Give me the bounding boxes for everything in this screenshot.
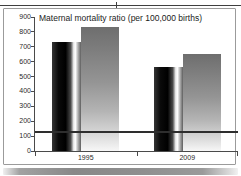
x-tick-mark bbox=[35, 152, 36, 156]
y-tick-mark bbox=[31, 121, 35, 122]
plot-area: 900800700600500400300200100019952009 bbox=[34, 17, 238, 152]
bar-gray-gradient-bars-2009 bbox=[183, 54, 221, 151]
y-tick-mark bbox=[31, 31, 35, 32]
y-tick-label: 700 bbox=[7, 43, 31, 51]
y-tick-mark bbox=[31, 46, 35, 47]
chart-frame: Maternal mortality ratio (per 100,000 bi… bbox=[3, 8, 236, 165]
y-tick-mark bbox=[31, 17, 35, 18]
y-tick-label: 900 bbox=[7, 13, 31, 21]
x-tick-mark bbox=[237, 152, 238, 156]
y-tick-mark bbox=[31, 91, 35, 92]
page: Maternal mortality ratio (per 100,000 bi… bbox=[0, 0, 241, 176]
y-tick-label: 400 bbox=[7, 87, 31, 95]
cropped-page-shadow bbox=[3, 168, 238, 175]
x-axis-label-1995: 1995 bbox=[78, 154, 94, 161]
y-tick-mark bbox=[31, 61, 35, 62]
cropped-rule-line bbox=[0, 5, 241, 6]
y-tick-label: 300 bbox=[7, 102, 31, 110]
y-tick-label: 600 bbox=[7, 58, 31, 66]
y-tick-mark bbox=[31, 136, 35, 137]
x-axis-label-2009: 2009 bbox=[179, 154, 195, 161]
y-tick-mark bbox=[31, 106, 35, 107]
y-tick-label: 100 bbox=[7, 132, 31, 140]
y-tick-label: 0 bbox=[7, 147, 31, 155]
reference-line bbox=[35, 131, 238, 133]
y-tick-mark bbox=[31, 76, 35, 77]
y-tick-label: 500 bbox=[7, 73, 31, 81]
y-tick-label: 200 bbox=[7, 117, 31, 125]
x-tick-mark bbox=[137, 152, 138, 156]
y-tick-label: 800 bbox=[7, 28, 31, 36]
